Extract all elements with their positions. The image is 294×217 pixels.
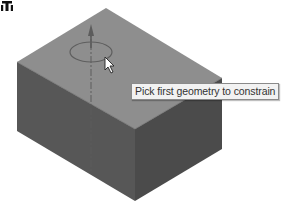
tooltip-text: Pick first geometry to constrain bbox=[135, 85, 275, 97]
constraint-icon bbox=[0, 0, 14, 12]
tooltip: Pick first geometry to constrain bbox=[131, 83, 279, 100]
graphics-viewport[interactable]: Pick first geometry to constrain bbox=[0, 0, 294, 217]
block-model[interactable] bbox=[0, 0, 294, 217]
